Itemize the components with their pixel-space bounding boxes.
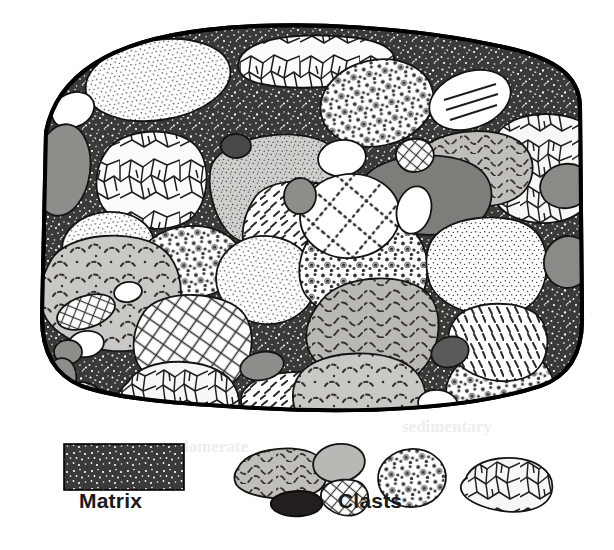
matrix-swatch: [64, 444, 184, 490]
clast-sample-breccia: [461, 458, 553, 512]
svg-text:sedimentary: sedimentary: [402, 417, 492, 436]
clasts-label: Clasts: [338, 489, 402, 513]
clast-breccia-bottom: [117, 362, 239, 438]
conglomerate-figure: sedimentary conglomerate clastic grain s…: [0, 0, 614, 550]
clast-stipple-right: [426, 217, 546, 315]
clast-xhatch-small-1: [396, 139, 434, 172]
clast-dark-nub-center: [221, 134, 251, 158]
clast-sample-black: [271, 491, 323, 516]
conglomerate-rock-body: [28, 25, 598, 444]
clast-sample-wavy-gray: [235, 449, 327, 499]
matrix-label: Matrix: [79, 489, 142, 513]
